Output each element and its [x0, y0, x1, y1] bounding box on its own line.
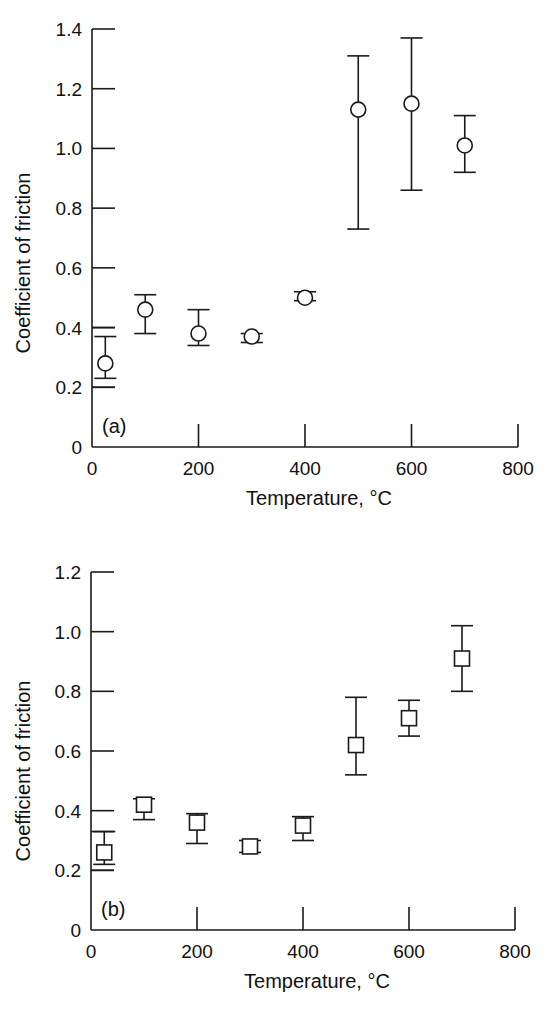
y-axis-label: Coefficient of friction	[12, 173, 34, 354]
x-tick-label: 0	[87, 458, 98, 479]
data-point	[186, 814, 208, 844]
x-tick-label: 800	[499, 941, 531, 962]
circle-marker	[138, 302, 153, 317]
square-marker	[349, 738, 364, 753]
y-tick-label: 1.2	[55, 562, 81, 583]
square-marker	[402, 711, 417, 726]
circle-marker	[298, 290, 313, 305]
data-point	[93, 832, 115, 865]
circle-marker	[404, 96, 419, 111]
y-tick-label: 0.4	[56, 318, 83, 339]
y-tick-label: 0	[71, 437, 82, 458]
circle-marker	[98, 356, 113, 371]
y-tick-label: 0.8	[55, 681, 81, 702]
y-tick-label: 0.6	[56, 258, 82, 279]
data-point	[454, 116, 476, 173]
y-tick-label: 1.0	[55, 622, 81, 643]
circle-marker	[457, 138, 472, 153]
y-tick-label: 0.2	[56, 377, 82, 398]
square-marker	[97, 845, 112, 860]
circle-marker	[244, 329, 259, 344]
x-tick-label: 200	[183, 458, 215, 479]
square-marker	[243, 839, 258, 854]
data-point	[451, 626, 473, 692]
data-point	[345, 697, 367, 775]
y-tick-label: 1.0	[56, 138, 82, 159]
x-tick-label: 0	[86, 941, 97, 962]
x-axis-label: Temperature, °C	[244, 970, 390, 992]
x-tick-label: 800	[502, 458, 534, 479]
square-marker	[296, 818, 311, 833]
y-tick-label: 0.2	[55, 860, 81, 881]
square-marker	[137, 797, 152, 812]
data-point	[294, 290, 316, 305]
data-point	[94, 337, 116, 379]
square-marker	[455, 651, 470, 666]
data-point	[292, 817, 314, 841]
circle-marker	[351, 102, 366, 117]
x-tick-label: 400	[289, 458, 321, 479]
y-tick-label: 0.4	[55, 801, 82, 822]
data-point	[241, 329, 263, 344]
y-tick-label: 0.8	[56, 198, 82, 219]
y-tick-label: 0.6	[55, 741, 81, 762]
data-point	[347, 56, 369, 229]
x-tick-label: 200	[181, 941, 213, 962]
y-tick-label: 1.2	[56, 79, 82, 100]
x-axis-label: Temperature, °C	[246, 487, 392, 509]
y-tick-label: 1.4	[56, 19, 83, 40]
data-point	[188, 310, 210, 346]
y-tick-label: 0	[70, 920, 81, 941]
x-tick-label: 400	[287, 941, 319, 962]
data-point	[134, 295, 156, 334]
panel-a: 00.20.40.60.81.01.21.40200400600800Tempe…	[12, 19, 534, 509]
data-point	[401, 38, 423, 190]
panel-b: 00.20.40.60.81.01.20200400600800Temperat…	[12, 562, 531, 992]
data-point	[133, 797, 155, 819]
x-tick-label: 600	[393, 941, 425, 962]
friction-chart: 00.20.40.60.81.01.21.40200400600800Tempe…	[0, 0, 550, 1009]
x-tick-label: 600	[396, 458, 428, 479]
panel-label: (b)	[101, 898, 125, 920]
data-point	[398, 700, 420, 736]
square-marker	[190, 815, 205, 830]
panel-label: (a)	[102, 415, 126, 437]
data-point	[239, 839, 261, 854]
circle-marker	[191, 326, 206, 341]
y-axis-label: Coefficient of friction	[12, 681, 34, 862]
